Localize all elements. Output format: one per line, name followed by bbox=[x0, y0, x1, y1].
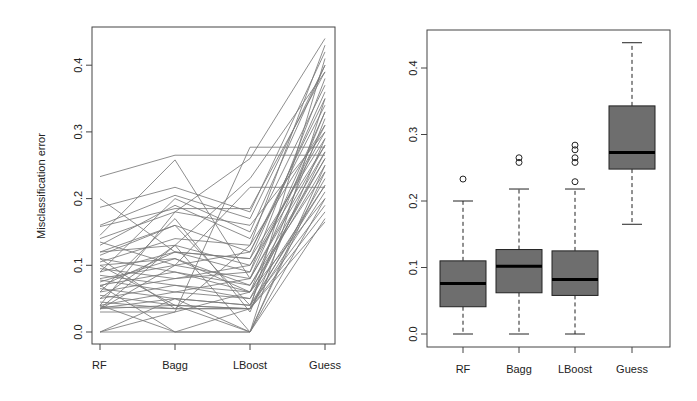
dataset-line bbox=[100, 112, 325, 279]
y-tick-label: 0.4 bbox=[407, 60, 419, 75]
y-tick-label: 0.3 bbox=[72, 124, 84, 139]
iqr-box bbox=[496, 250, 542, 293]
y-tick-label: 0.1 bbox=[407, 260, 419, 275]
chart-figure: 0.00.10.20.30.4 RFBaggLBoostGuess Miscla… bbox=[0, 0, 697, 401]
outlier-point bbox=[572, 179, 578, 185]
parallel-coordinate-plot: 0.00.10.20.30.4 RFBaggLBoostGuess Miscla… bbox=[35, 27, 341, 371]
y-tick-label: 0.1 bbox=[72, 258, 84, 273]
x-tick-label: Bagg bbox=[162, 359, 188, 371]
y-tick-label: 0.0 bbox=[407, 326, 419, 341]
dataset-line bbox=[100, 92, 325, 259]
iqr-box bbox=[609, 106, 655, 169]
y-tick-label: 0.2 bbox=[407, 193, 419, 208]
left-y-axis: 0.00.10.20.30.4 bbox=[72, 58, 92, 340]
dataset-line bbox=[100, 59, 325, 333]
x-tick-label: LBoost bbox=[233, 359, 267, 371]
y-tick-label: 0.3 bbox=[407, 127, 419, 142]
iqr-box bbox=[552, 251, 598, 296]
x-tick-label: Guess bbox=[309, 359, 341, 371]
x-tick-label: RF bbox=[92, 359, 107, 371]
box-guess bbox=[609, 43, 655, 225]
x-tick-label: Guess bbox=[616, 363, 648, 375]
y-axis-title: Misclassification error bbox=[35, 133, 47, 239]
box-lboost bbox=[552, 142, 598, 334]
box-bagg bbox=[496, 155, 542, 334]
boxes bbox=[440, 43, 655, 334]
left-x-axis: RFBaggLBoostGuess bbox=[92, 344, 341, 371]
y-tick-label: 0.4 bbox=[72, 58, 84, 73]
box-rf bbox=[440, 176, 486, 334]
y-tick-label: 0.0 bbox=[72, 324, 84, 339]
x-tick-label: Bagg bbox=[506, 363, 532, 375]
outlier-point bbox=[460, 176, 466, 182]
right-x-axis: RFBaggLBoostGuess bbox=[456, 347, 649, 375]
x-tick-label: RF bbox=[456, 363, 471, 375]
right-y-axis: 0.00.10.20.30.4 bbox=[407, 60, 427, 341]
dataset-lines bbox=[100, 39, 325, 333]
dataset-line bbox=[100, 105, 325, 255]
x-tick-label: LBoost bbox=[558, 363, 592, 375]
y-tick-label: 0.2 bbox=[72, 191, 84, 206]
box-plot: 0.00.10.20.30.4 RFBaggLBoostGuess bbox=[407, 30, 670, 375]
